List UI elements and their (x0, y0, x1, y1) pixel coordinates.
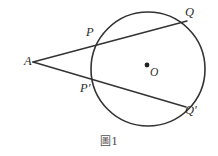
point-label-a: A (24, 55, 32, 68)
caption-number: 1 (112, 134, 119, 148)
caption-symbol: 圖 (100, 135, 112, 148)
point-label-o: O (150, 67, 158, 79)
figure-caption: 圖1 (0, 132, 218, 149)
figure-container: A P P' Q Q' O 圖1 (0, 0, 218, 156)
point-label-p-prime: P' (80, 82, 90, 95)
secant-line-apq-prime (33, 62, 186, 107)
center-dot (145, 63, 150, 68)
point-label-q: Q (185, 6, 194, 19)
point-label-q-prime: Q' (185, 104, 197, 117)
point-label-p: P (86, 26, 94, 39)
